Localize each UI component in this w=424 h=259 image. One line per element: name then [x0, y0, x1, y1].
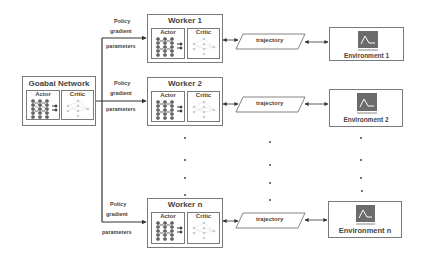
environment-label: Environment n [329, 226, 401, 235]
trajectory-label-2: trajectory [256, 100, 283, 106]
actor-network-icon [152, 92, 186, 123]
edge-label-parameters-1: parameters [106, 43, 136, 49]
edge-label-policy-1: Policy [114, 18, 130, 24]
ellipsis-dot [360, 137, 362, 139]
ellipsis-dot [184, 194, 186, 196]
worker-critic-box: Critic [187, 212, 220, 244]
worker-box-n: Worker n Actor Critic [147, 198, 223, 248]
worker-critic-box: Critic [187, 91, 220, 122]
edge-label-gradient-1: gradient [110, 28, 132, 34]
worker-actor-box: Actor [151, 212, 185, 244]
worker-title: Worker 1 [148, 16, 222, 25]
environment-box-2: Environment 2 [329, 89, 403, 127]
ellipsis-dot [184, 177, 186, 179]
critic-network-icon [62, 91, 95, 121]
worker-box-1: Worker 1 Actor Critic [147, 14, 223, 63]
global-actor-box: Actor [26, 90, 60, 120]
ellipsis-dot [269, 199, 271, 201]
edge-label-policy-n: Policy [110, 201, 126, 207]
global-network-title: Goabal Network [23, 79, 95, 88]
environment-box-1: Environment 1 [329, 27, 404, 61]
ellipsis-dot [269, 182, 271, 184]
trajectory-label-1: trajectory [256, 37, 283, 43]
critic-network-icon [188, 213, 221, 245]
trajectory-label-n: trajectory [256, 216, 283, 222]
actor-network-icon [152, 213, 186, 245]
edge-label-gradient-n: gradient [106, 211, 128, 217]
critic-network-icon [188, 29, 221, 60]
ellipsis-dot [360, 159, 362, 161]
edge-label-gradient-2: gradient [110, 90, 132, 96]
worker-title: Worker 2 [148, 79, 222, 88]
worker-box-2: Worker 2 Actor Critic [147, 77, 223, 126]
edge-label-policy-2: Policy [114, 80, 130, 86]
ellipsis-dot [269, 141, 271, 143]
global-critic-box: Critic [61, 90, 94, 120]
ellipsis-dot [184, 137, 186, 139]
ellipsis-dot [360, 177, 362, 179]
actor-network-icon [152, 29, 186, 60]
ellipsis-dot [184, 159, 186, 161]
worker-actor-box: Actor [151, 28, 185, 59]
edge-label-parameters-n: parameters [102, 229, 132, 235]
critic-network-icon [188, 92, 221, 123]
environment-label: Environment 1 [330, 52, 403, 59]
worker-critic-box: Critic [187, 28, 220, 59]
worker-actor-box: Actor [151, 91, 185, 122]
global-network-box: Goabal Network Actor Critic [22, 76, 96, 126]
ellipsis-dot [361, 190, 363, 192]
worker-title: Worker n [148, 200, 222, 209]
actor-network-icon [27, 91, 61, 121]
environment-box-n: Environment n [328, 201, 402, 238]
environment-label: Environment 2 [330, 116, 402, 123]
ellipsis-dot [269, 164, 271, 166]
edge-label-parameters-2: parameters [106, 106, 136, 112]
